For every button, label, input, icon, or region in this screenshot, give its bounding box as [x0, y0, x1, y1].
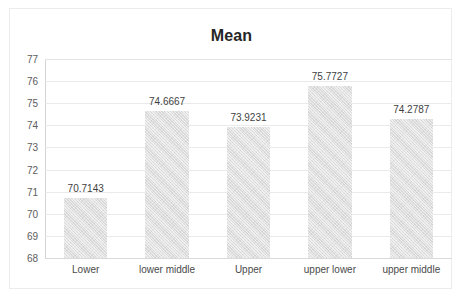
- gridline: [45, 258, 452, 259]
- bar-value-label: 75.7727: [312, 71, 348, 82]
- y-axis-line: [45, 59, 46, 258]
- bar-value-label: 74.6667: [149, 96, 185, 107]
- y-axis-tick-label: 75: [27, 98, 38, 109]
- x-axis-labels-group: Lowerlower middleUpperupper lowerupper m…: [45, 264, 452, 286]
- x-axis-tick-label: upper lower: [304, 264, 356, 275]
- y-axis-tick-label: 72: [27, 164, 38, 175]
- bar[interactable]: 74.6667: [145, 111, 189, 258]
- bar[interactable]: 75.7727: [308, 86, 352, 258]
- x-axis-tick-label: upper middle: [382, 264, 440, 275]
- y-axis-tick-label: 74: [27, 120, 38, 131]
- x-axis-tick-label: Upper: [235, 264, 262, 275]
- chart-container: Mean 77767574737271706968 70.714374.6667…: [9, 8, 452, 289]
- gridline: [45, 103, 452, 104]
- bar[interactable]: 74.2787: [390, 119, 434, 258]
- y-axis-tick-label: 69: [27, 230, 38, 241]
- bar[interactable]: 70.7143: [64, 198, 108, 258]
- bar-value-label: 70.7143: [68, 183, 104, 194]
- plot-area: 77767574737271706968 70.714374.666773.92…: [45, 59, 452, 258]
- y-axis-tick-label: 68: [27, 253, 38, 264]
- x-axis-tick-label: Lower: [72, 264, 99, 275]
- gridline: [45, 81, 452, 82]
- y-axis-tick-label: 76: [27, 76, 38, 87]
- y-axis-tick-label: 71: [27, 186, 38, 197]
- chart-title: Mean: [10, 27, 453, 45]
- y-axis-tick-label: 77: [27, 54, 38, 65]
- bar-value-label: 74.2787: [393, 104, 429, 115]
- y-axis-tick-label: 73: [27, 142, 38, 153]
- x-axis-tick-label: lower middle: [139, 264, 195, 275]
- bar-value-label: 73.9231: [230, 112, 266, 123]
- bar[interactable]: 73.9231: [227, 127, 271, 258]
- gridline: [45, 59, 452, 60]
- y-axis-tick-label: 70: [27, 208, 38, 219]
